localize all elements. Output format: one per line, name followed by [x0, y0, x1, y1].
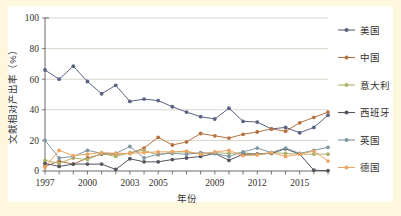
- data-point: [284, 129, 288, 133]
- data-point: [57, 148, 61, 152]
- legend-label: 西班牙: [360, 107, 390, 118]
- data-point: [312, 116, 316, 120]
- data-point: [284, 146, 288, 150]
- x-axis-title: 年份: [177, 193, 197, 204]
- y-tick-label: 40: [30, 105, 40, 115]
- data-point: [255, 153, 259, 157]
- legend-swatch-marker: [345, 111, 349, 115]
- data-point: [312, 149, 316, 153]
- data-point: [156, 99, 160, 103]
- data-point: [270, 151, 274, 155]
- legend-swatch-marker: [345, 83, 349, 87]
- data-point: [142, 156, 146, 160]
- data-point: [227, 158, 231, 162]
- data-point: [71, 162, 75, 166]
- y-tick-label: 60: [30, 75, 40, 85]
- data-point: [227, 136, 231, 140]
- data-point: [213, 134, 217, 138]
- x-tick-label: 2005: [149, 178, 168, 188]
- data-point: [57, 156, 61, 160]
- data-point: [57, 165, 61, 169]
- data-point: [255, 120, 259, 124]
- data-point: [326, 145, 330, 149]
- data-point: [100, 162, 104, 166]
- y-axis-title: 文献相对产出率（%）: [7, 45, 18, 143]
- data-point: [43, 139, 47, 143]
- data-point: [100, 151, 104, 155]
- data-point: [241, 132, 245, 136]
- legend-label: 意大利: [360, 80, 390, 91]
- data-point: [326, 152, 330, 156]
- chart-plot-wrapper: 0204060801001997200020032005200920122015…: [0, 0, 401, 216]
- data-point: [43, 161, 47, 165]
- data-point: [142, 151, 146, 155]
- y-tick-label: 0: [34, 166, 39, 176]
- data-point: [213, 150, 217, 154]
- data-point: [86, 148, 90, 152]
- data-point: [128, 145, 132, 149]
- legend-item-英国[interactable]: 英国: [338, 135, 380, 146]
- data-point: [227, 155, 231, 159]
- series-美国: [43, 64, 330, 134]
- data-point: [270, 127, 274, 131]
- data-point: [170, 158, 174, 162]
- data-point: [185, 156, 189, 160]
- legend-item-德国[interactable]: 德国: [338, 162, 380, 173]
- legend-label: 中国: [360, 52, 380, 63]
- legend-label: 德国: [360, 162, 380, 173]
- legend-swatch-marker: [345, 166, 349, 170]
- data-point: [312, 168, 316, 172]
- data-point: [213, 117, 217, 121]
- x-tick-label: 2015: [290, 178, 309, 188]
- data-point: [199, 115, 203, 119]
- legend-label: 英国: [360, 135, 380, 146]
- x-tick-label: 2000: [78, 178, 97, 188]
- data-point: [100, 92, 104, 96]
- x-tick-label: 2009: [205, 178, 224, 188]
- data-point: [326, 159, 330, 163]
- data-point: [142, 160, 146, 164]
- y-tick-label: 80: [30, 44, 40, 54]
- data-point: [241, 154, 245, 158]
- data-point: [128, 99, 132, 103]
- data-point: [128, 157, 132, 161]
- data-point: [185, 110, 189, 114]
- data-point: [185, 140, 189, 144]
- data-point: [86, 162, 90, 166]
- legend-item-美国[interactable]: 美国: [338, 25, 380, 36]
- data-point: [57, 77, 61, 81]
- data-point: [128, 152, 132, 156]
- data-point: [326, 110, 330, 114]
- data-point: [284, 126, 288, 130]
- x-tick-label: 2012: [248, 178, 267, 188]
- data-point: [170, 105, 174, 109]
- data-point: [86, 158, 90, 162]
- data-point: [255, 146, 259, 150]
- data-point: [255, 130, 259, 134]
- data-point: [199, 132, 203, 136]
- legend-item-西班牙[interactable]: 西班牙: [338, 107, 390, 118]
- legend-label: 美国: [360, 25, 380, 36]
- data-point: [114, 168, 118, 172]
- data-point: [284, 155, 288, 159]
- data-point: [86, 152, 90, 156]
- data-point: [170, 143, 174, 147]
- y-tick-label: 20: [30, 136, 40, 146]
- x-tick-label: 2003: [120, 178, 139, 188]
- data-point: [241, 119, 245, 123]
- data-point: [241, 150, 245, 154]
- data-point: [142, 97, 146, 101]
- data-point: [199, 152, 203, 156]
- data-point: [156, 160, 160, 164]
- y-tick-label: 100: [25, 13, 40, 23]
- data-point: [43, 68, 47, 72]
- data-point: [86, 80, 90, 84]
- legend-item-意大利[interactable]: 意大利: [338, 80, 390, 91]
- data-point: [156, 150, 160, 154]
- x-tick-label: 1997: [36, 178, 55, 188]
- legend-item-中国[interactable]: 中国: [338, 52, 380, 63]
- data-point: [71, 64, 75, 68]
- legend-swatch-marker: [345, 56, 349, 60]
- legend-swatch-marker: [345, 28, 349, 32]
- data-point: [326, 169, 330, 173]
